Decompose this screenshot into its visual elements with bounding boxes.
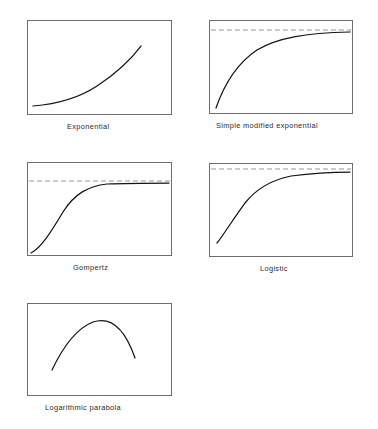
simple-modified-exponential-curve-plot: [209, 20, 353, 114]
panel-caption-logarithmic-parabola: Logarithmic parabola: [45, 403, 121, 412]
simple-modified-exponential-curve: [216, 32, 350, 108]
panel-logistic: Logistic: [209, 163, 353, 257]
panel-caption-logistic: Logistic: [260, 264, 288, 273]
panel-caption-gompertz: Gompertz: [73, 263, 108, 272]
logarithmic-parabola-curve: [52, 321, 135, 370]
exponential-curve-plot: [27, 20, 172, 115]
exponential-curve: [33, 46, 141, 106]
logistic-curve-plot: [209, 163, 353, 257]
logarithmic-parabola-curve-plot: [27, 303, 172, 396]
growth-curves-figure: Exponential Simple modified exponential …: [0, 0, 378, 429]
panel-logarithmic-parabola: Logarithmic parabola: [27, 303, 172, 396]
panel-simple-modified-exponential: Simple modified exponential: [209, 20, 353, 114]
panel-caption-exponential: Exponential: [67, 122, 109, 131]
gompertz-curve-plot: [27, 162, 172, 256]
panel-caption-simple-modified-exponential: Simple modified exponential: [216, 121, 318, 130]
panel-exponential: Exponential: [27, 20, 172, 115]
logistic-curve: [217, 172, 350, 243]
gompertz-curve: [31, 183, 169, 253]
panel-gompertz: Gompertz: [27, 162, 172, 256]
